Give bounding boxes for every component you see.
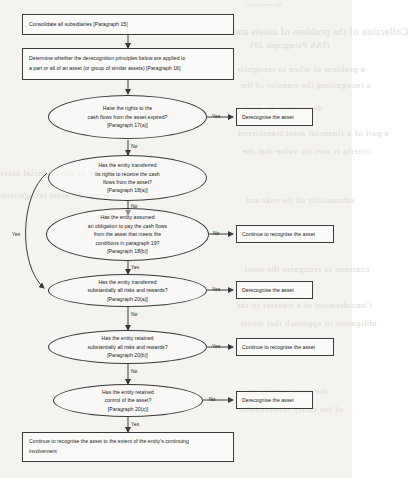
edge-label-d3-yes: Yes [131,264,139,270]
node-continue-1[interactable]: Continue to recognise the asset [236,225,334,243]
edge-label-d6-no: No [209,396,215,402]
edge-label-d5-yes: Yes [212,343,220,349]
node-assumed-obligation-line: conditions in paragraph 19? [95,239,159,247]
node-transferred-rights-line: its rights to receive the cash [95,170,159,178]
node-retained-control-line: Has the entity retained [102,388,154,396]
node-retained-control-line: control of the asset? [105,396,152,404]
node-retained-risks-rewards[interactable]: Has the entity retained substantially al… [48,330,207,364]
node-transferred-rights-line: [Paragraph 18(a)] [107,186,148,194]
edge-label-d6-yes: Yes [131,421,139,427]
node-assumed-obligation[interactable]: Has the entity assumed an obligation to … [46,208,209,261]
node-assumed-obligation-line: Has the entity assumed [100,213,154,221]
node-transferred-risks-rewards-line: Has the entity transferred [98,278,156,286]
node-determine-scope[interactable]: Determine whether the derecognition prin… [22,48,234,80]
node-retained-risks-rewards-line: Has the entity retained [102,334,154,342]
edge-label-d1-yes: Yes [212,113,220,119]
node-retained-risks-rewards-line: [Paragraph 20(b)] [107,351,148,359]
edge-label-d2-yes: Yes [12,231,20,237]
node-transferred-risks-rewards-line: substantially all risks and rewards? [87,286,167,294]
node-assumed-obligation-line: from the asset that meets the [94,230,161,238]
edge-label-d5-no: No [131,368,137,374]
node-consolidate[interactable]: Consolidate all subsidiaries [Paragraph … [22,14,234,35]
edge-label-d1-no: No [131,143,137,149]
node-rights-expired-line: cash flows from the asset expired? [88,113,168,121]
node-derecognise-2-label: Derecognise the asset [242,287,294,293]
node-derecognise-3-label: Derecognise the asset [242,397,294,403]
node-transferred-rights[interactable]: Has the entity transferred its rights to… [48,155,207,201]
node-assumed-obligation-line: an obligation to pay the cash flows [88,222,167,230]
node-derecognise-1[interactable]: Derecognise the asset [236,108,313,126]
edge-label-d2-no: No [131,203,137,209]
node-continue-2-label: Continue to recognise the asset [242,344,315,350]
node-rights-expired-line: Have the rights to the [103,104,152,112]
node-rights-expired-line: [Paragraph 17(a)] [107,121,148,129]
node-retained-control-line: [Paragraph 20(c)] [108,405,148,413]
node-continue-1-label: Continue to recognise the asset [242,231,315,237]
node-transferred-rights-line: Has the entity transferred [98,161,156,169]
node-derecognise-1-label: Derecognise the asset [242,114,294,120]
node-assumed-obligation-line: [Paragraph 18(b)] [107,247,148,255]
node-transferred-risks-rewards-line: [Paragraph 20(a)] [107,295,148,303]
node-derecognise-3[interactable]: Derecognise the asset [236,391,313,409]
node-continue-2[interactable]: Continue to recognise the asset [236,338,334,356]
node-retained-risks-rewards-line: substantially all risks and rewards? [87,343,167,351]
node-continue-extent-line: Continue to recognise the asset to the e… [29,437,189,447]
node-continue-extent-line: involvement [29,447,57,457]
node-consolidate-line: Consolidate all subsidiaries [Paragraph … [29,20,128,30]
node-determine-scope-line: a part or all of an asset (or group of s… [29,64,180,74]
node-retained-control[interactable]: Has the entity retained control of the a… [53,384,203,417]
edge-label-d3-no: No [213,230,219,236]
node-continue-extent[interactable]: Continue to recognise the asset to the e… [22,432,234,462]
node-derecognise-2[interactable]: Derecognise the asset [236,281,313,299]
node-rights-expired[interactable]: Have the rights to the cash flows from t… [48,95,207,139]
edge-label-d4-yes: Yes [212,286,220,292]
node-transferred-risks-rewards[interactable]: Has the entity transferred substantially… [48,274,207,307]
edge-label-d4-no: No [131,311,137,317]
node-transferred-rights-line: flows from the asset? [103,178,152,186]
node-determine-scope-line: Determine whether the derecognition prin… [29,54,185,64]
